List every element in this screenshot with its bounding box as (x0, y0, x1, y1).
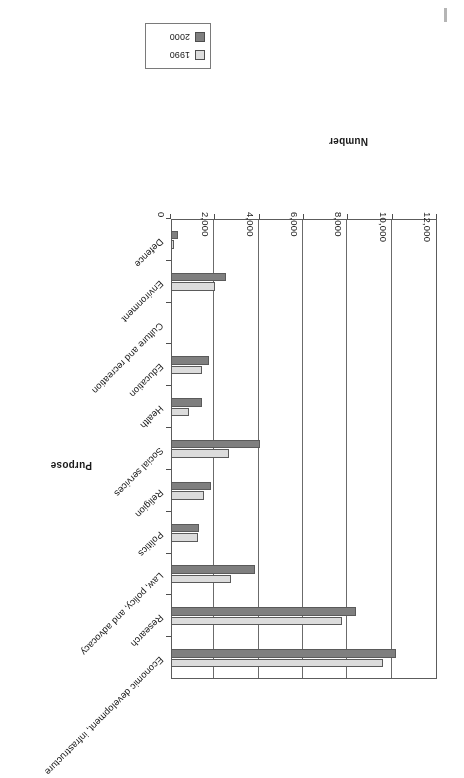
bar-1990 (171, 575, 231, 584)
value-axis-tick-label: 10,000 (378, 212, 389, 242)
value-axis-title: Number (329, 136, 368, 147)
category-axis-label: Culture and recreation (90, 320, 166, 396)
value-axis-tick (392, 214, 393, 219)
gridline (391, 220, 392, 678)
value-axis-tick-label: 4,000 (245, 212, 256, 237)
legend-swatch-2000 (195, 32, 205, 42)
bar-2000 (171, 398, 202, 407)
bar-2000 (171, 649, 396, 658)
bar-2000 (171, 356, 209, 365)
category-axis-label: Education (128, 362, 166, 400)
value-axis: 02,0004,0006,0008,00010,00012,000 (171, 218, 437, 219)
legend-item-2000: 2000 (151, 28, 205, 46)
category-axis-tick (166, 427, 171, 428)
value-axis-tick-label: 0 (156, 212, 167, 217)
value-axis-tick (347, 214, 348, 219)
bar-1990 (171, 659, 383, 668)
category-axis-tick (166, 553, 171, 554)
value-axis-tick-label: 6,000 (289, 212, 300, 237)
value-axis-tick (303, 214, 304, 219)
bar-2000 (171, 231, 178, 240)
bar-2000 (171, 273, 226, 282)
value-axis-tick-label: 2,000 (200, 212, 211, 237)
category-axis-tick (166, 302, 171, 303)
category-axis-tick (166, 594, 171, 595)
bar-2000 (171, 524, 199, 533)
bar-2000 (171, 482, 211, 491)
bar-2000 (171, 440, 260, 449)
legend-label-1990: 1990 (170, 50, 190, 60)
value-axis-tick-label: 8,000 (333, 212, 344, 237)
category-axis-label: Politics (136, 529, 166, 559)
bar-2000 (171, 565, 255, 574)
category-axis-label: Defence (133, 237, 166, 270)
legend-item-1990: 1990 (151, 46, 205, 64)
category-axis-label: Health (138, 404, 166, 432)
category-axis-tick (166, 218, 171, 219)
chart-legend: 1990 2000 (145, 23, 211, 69)
category-axis-tick (166, 511, 171, 512)
category-axis-tick (166, 343, 171, 344)
category-axis-label: Environment (120, 278, 166, 324)
category-axis-label: Research (129, 613, 166, 650)
value-axis-tick (436, 214, 437, 219)
category-axis-label: Religion (133, 487, 166, 520)
bar-1990 (171, 450, 229, 459)
legend-swatch-1990 (195, 50, 205, 60)
bar-1990 (171, 282, 215, 291)
category-axis-label: Economic development, infrastructure (43, 655, 166, 778)
category-axis-label: Law, policy, and advocacy (79, 571, 166, 658)
bar-1990 (171, 240, 174, 249)
bar-1990 (171, 491, 204, 500)
category-axis-tick (166, 260, 171, 261)
category-axis-tick (166, 636, 171, 637)
value-axis-tick-label: 12,000 (422, 212, 433, 242)
value-axis-tick (259, 214, 260, 219)
scan-artifact (444, 8, 447, 22)
value-axis-tick (214, 214, 215, 219)
bar-1990 (171, 617, 342, 626)
category-axis-title: Purpose (51, 460, 92, 471)
legend-label-2000: 2000 (170, 32, 190, 42)
bar-2000 (171, 607, 356, 616)
bar-1990 (171, 533, 198, 542)
bar-1990 (171, 366, 202, 375)
bar-1990 (171, 408, 189, 417)
category-axis-tick (166, 385, 171, 386)
category-axis-tick (166, 469, 171, 470)
